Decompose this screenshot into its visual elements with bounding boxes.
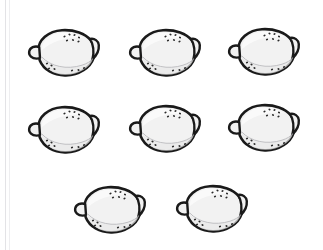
lemon-7-icon xyxy=(70,177,148,241)
lemon-grid xyxy=(0,0,323,250)
lemon-2-icon xyxy=(125,20,203,84)
lemon-6-icon xyxy=(224,95,302,159)
lemon-8-icon xyxy=(172,176,250,240)
lemon-3-icon xyxy=(224,19,302,83)
lemon-1-icon xyxy=(24,20,102,84)
lemon-4-icon xyxy=(24,97,102,161)
lemon-illustration-canvas xyxy=(0,0,323,250)
lemon-5-icon xyxy=(125,96,203,160)
